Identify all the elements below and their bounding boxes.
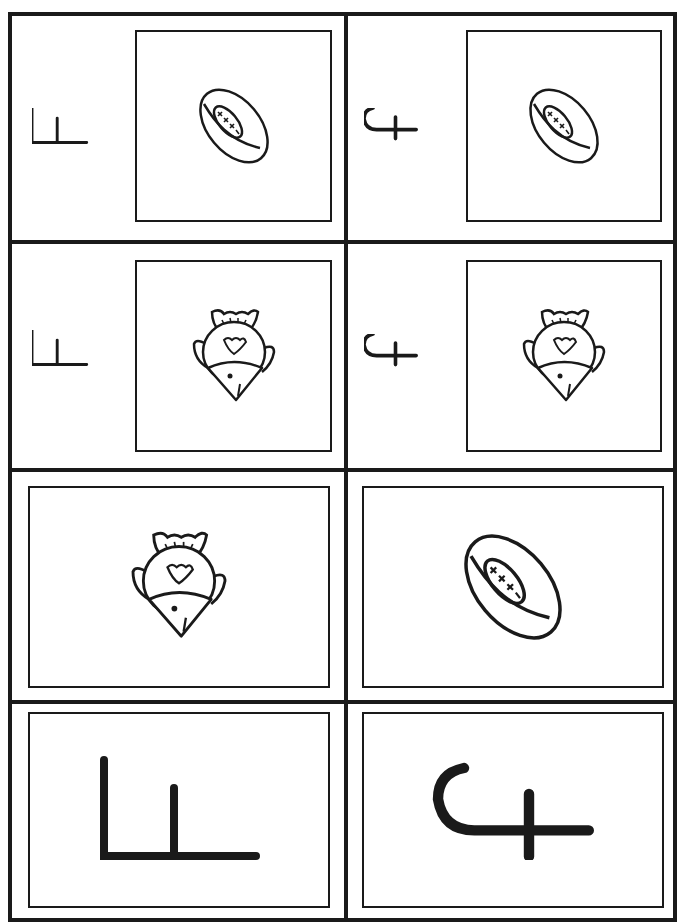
card-uppercase-f-football[interactable]: F: [12, 16, 344, 240]
fish-icon: [109, 517, 249, 657]
letter-frame: [28, 712, 330, 908]
picture-frame: [466, 30, 662, 222]
lowercase-f-rotated-icon: [428, 760, 598, 860]
uppercase-f-rotated-icon: [32, 108, 122, 168]
letter-label: F: [12, 244, 13, 245]
lowercase-f-rotated-icon: [364, 334, 434, 384]
picture-frame: [466, 260, 662, 452]
letter-frame: [362, 712, 664, 908]
letter-label: f: [348, 704, 349, 705]
card-fish-picture[interactable]: [12, 472, 344, 700]
letter-label: f: [348, 16, 349, 17]
picture-frame: [135, 30, 332, 222]
card-lowercase-f-fish[interactable]: f: [348, 244, 673, 468]
picture-frame: [28, 486, 330, 688]
letter-label: f: [348, 244, 349, 245]
letter-label: F: [12, 16, 13, 17]
card-uppercase-f-fish[interactable]: F: [12, 244, 344, 468]
uppercase-f-rotated-icon: [94, 750, 264, 870]
card-lowercase-f-large[interactable]: f: [348, 704, 673, 918]
worksheet-grid: F f F f F: [8, 12, 677, 922]
card-uppercase-f-large[interactable]: F: [12, 704, 344, 918]
football-icon: [438, 512, 588, 662]
football-icon: [504, 66, 624, 186]
card-lowercase-f-football[interactable]: f: [348, 16, 673, 240]
football-icon: [174, 66, 294, 186]
uppercase-f-rotated-icon: [32, 330, 122, 390]
lowercase-f-rotated-icon: [364, 108, 434, 158]
fish-icon: [174, 296, 294, 416]
letter-label: F: [12, 704, 13, 705]
picture-frame: [135, 260, 332, 452]
fish-icon: [504, 296, 624, 416]
card-football-picture[interactable]: [348, 472, 673, 700]
picture-frame: [362, 486, 664, 688]
